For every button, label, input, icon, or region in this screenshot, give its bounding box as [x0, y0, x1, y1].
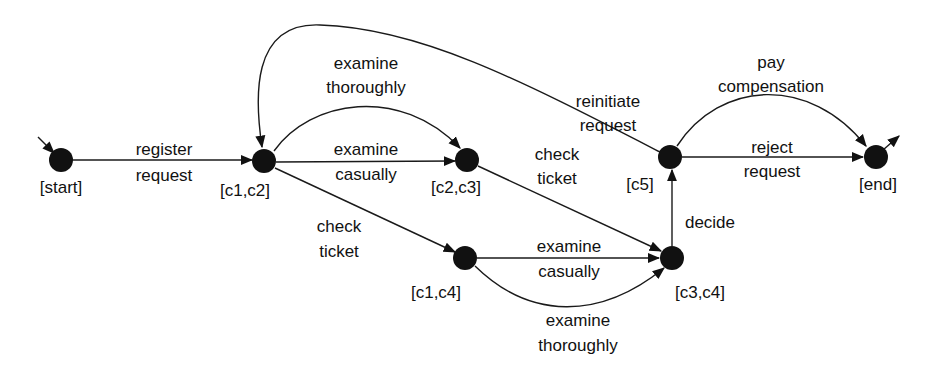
edge-examine-casually-1 — [276, 161, 455, 162]
state-start — [49, 148, 73, 172]
edge-label-casually: casually — [335, 165, 397, 184]
edge-label-casually: casually — [538, 262, 600, 281]
edge-label-request: request — [744, 162, 801, 181]
state-label-end: [end] — [859, 175, 897, 194]
edge-label-check: check — [535, 145, 580, 164]
edge-label-ticket: ticket — [537, 169, 577, 188]
edge-label-pay: pay — [757, 53, 785, 72]
state-label-c1-c2: [c1,c2] — [220, 181, 270, 200]
transition-system-diagram: [start] [c1,c2] [c2,c3] [c1,c4] [c3,c4] … — [0, 0, 935, 372]
edge-label-reject: reject — [751, 138, 793, 157]
state-label-c5: [c5] — [626, 175, 653, 194]
edge-label-reinitiate: reinitiate — [576, 92, 640, 111]
edge-label-examine: examine — [334, 140, 398, 159]
state-c1-c2 — [252, 149, 276, 173]
final-arrow — [883, 136, 899, 150]
edge-label-thoroughly: thoroughly — [326, 78, 406, 97]
edge-label-examine: examine — [537, 237, 601, 256]
state-c3-c4 — [660, 246, 684, 270]
state-end — [864, 145, 888, 169]
edge-label-request: request — [136, 166, 193, 185]
state-label-c2-c3: [c2,c3] — [431, 178, 481, 197]
state-c2-c3 — [455, 148, 479, 172]
state-label-c3-c4: [c3,c4] — [675, 283, 725, 302]
state-label-c1-c4: [c1,c4] — [411, 283, 461, 302]
edge-label-check: check — [317, 217, 362, 236]
edge-label-request: request — [580, 116, 637, 135]
initial-arrow — [38, 137, 54, 153]
edge-label-register: register — [136, 140, 193, 159]
edge-label-decide: decide — [685, 213, 735, 232]
edge-labels: register request examine casually examin… — [136, 53, 824, 355]
edge-label-compensation: compensation — [718, 77, 824, 96]
state-c5 — [658, 145, 682, 169]
edge-label-examine: examine — [546, 311, 610, 330]
state-c1-c4 — [453, 246, 477, 270]
node-labels: [start] [c1,c2] [c2,c3] [c1,c4] [c3,c4] … — [40, 175, 897, 302]
edge-label-thoroughly: thoroughly — [538, 336, 618, 355]
edge-label-examine: examine — [334, 54, 398, 73]
edge-label-ticket: ticket — [319, 242, 359, 261]
state-label-start: [start] — [40, 178, 83, 197]
